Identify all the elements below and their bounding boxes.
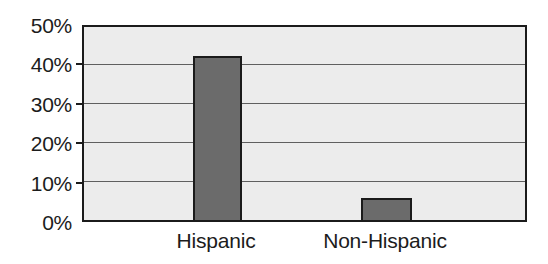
gridline-30 [84, 103, 525, 104]
plot-area [82, 25, 527, 222]
bar-non-hispanic [361, 198, 412, 220]
y-tick-label-30: 30% [31, 93, 72, 114]
plot-inner [84, 27, 525, 220]
y-tick-label-0: 0% [42, 212, 72, 233]
gridline-10 [84, 181, 525, 182]
y-tick-label-20: 20% [31, 133, 72, 154]
x-tick-label-non-hispanic: Non-Hispanic [323, 228, 447, 254]
x-tick-label-hispanic: Hispanic [177, 228, 256, 254]
y-tick-label-50: 50% [31, 15, 72, 36]
y-tick-label-40: 40% [31, 54, 72, 75]
x-axis: Hispanic Non-Hispanic [82, 228, 527, 262]
bar-hispanic [193, 56, 242, 220]
gridline-20 [84, 142, 525, 143]
y-axis: 50% 40% 30% 20% 10% 0% [0, 0, 76, 264]
y-tick-label-10: 10% [31, 172, 72, 193]
bar-chart: 50% 40% 30% 20% 10% 0% Hispanic Non-Hisp… [0, 0, 548, 264]
gridline-40 [84, 64, 525, 65]
